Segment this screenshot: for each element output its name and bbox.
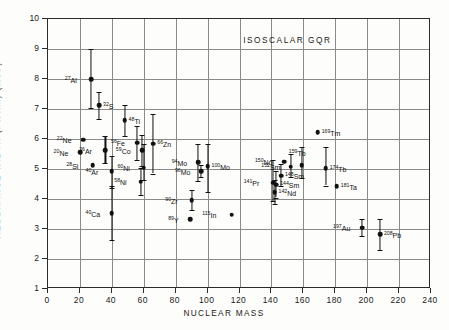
error-bar-cap: [288, 154, 293, 155]
data-point-label: 40Ca: [86, 210, 101, 218]
x-axis-tick: [334, 288, 335, 293]
data-point-label: 22Ne: [57, 136, 72, 144]
data-point[interactable]: [110, 169, 115, 174]
x-axis-tick: [239, 288, 240, 293]
x-axis-tick: [111, 288, 112, 293]
gridline-vertical: [399, 19, 400, 287]
error-bar-cap: [196, 144, 201, 145]
error-bar-cap: [196, 181, 201, 182]
gridline-vertical: [271, 19, 272, 287]
data-point-label: 27Al: [65, 76, 77, 84]
error-bar-cap: [89, 108, 94, 109]
data-point[interactable]: [138, 179, 143, 184]
error-bar-cap: [274, 171, 279, 172]
error-bar-cap: [89, 49, 94, 50]
data-point[interactable]: [205, 164, 210, 169]
data-point[interactable]: [81, 137, 86, 142]
y-axis-tick: [42, 108, 47, 109]
x-axis-tick-label: 100: [199, 295, 214, 305]
error-bar-cap: [377, 219, 382, 220]
data-point[interactable]: [103, 148, 108, 153]
x-axis-tick: [366, 288, 367, 293]
error-bar-cap: [135, 126, 140, 127]
error-bar-cap: [103, 163, 108, 164]
data-point[interactable]: [189, 198, 194, 203]
x-axis-tick: [398, 288, 399, 293]
data-point-label: 28Si: [66, 162, 78, 170]
x-axis-tick: [175, 288, 176, 293]
data-point[interactable]: [188, 217, 193, 222]
x-axis-tick-label: 40: [106, 295, 116, 305]
data-point[interactable]: [360, 225, 365, 230]
data-point-label: 174Tb: [330, 165, 347, 173]
error-bar: [143, 144, 144, 181]
data-point-label: 40Ar: [86, 168, 99, 176]
y-axis-tick-label: 7: [21, 103, 39, 113]
gridline-horizontal: [48, 79, 429, 80]
gridline-vertical: [112, 19, 113, 287]
x-axis-title: NUCLEAR MASS: [183, 308, 264, 318]
y-axis-tick-label: 2: [21, 253, 39, 263]
gridline-horizontal: [48, 259, 429, 260]
data-point-label: 48Ti: [129, 117, 140, 125]
y-axis-tick: [42, 18, 47, 19]
data-point[interactable]: [323, 166, 328, 171]
data-point[interactable]: [196, 160, 201, 165]
data-point-label: 66Zn: [157, 140, 171, 148]
data-point-label: 169Tm: [322, 129, 341, 137]
data-point[interactable]: [378, 232, 383, 237]
x-axis-tick: [79, 288, 80, 293]
data-point[interactable]: [272, 190, 277, 195]
error-bar-cap: [360, 236, 365, 237]
y-axis-tick-label: 10: [21, 13, 39, 23]
plot-area: 27Al32S48Ti22Ne20Ne36Ar56Fe59Co66Zn28Si6…: [47, 18, 430, 288]
data-point[interactable]: [199, 169, 204, 174]
error-bar-cap: [109, 186, 114, 187]
data-point-label: 36Ar: [79, 147, 92, 155]
y-axis-tick-label: 1: [21, 283, 39, 293]
y-axis-tick: [42, 48, 47, 49]
data-point[interactable]: [122, 118, 127, 123]
data-point[interactable]: [151, 142, 156, 147]
data-point[interactable]: [229, 212, 234, 217]
error-bar-cap: [272, 204, 277, 205]
data-point-label: 89Y: [168, 216, 178, 224]
error-bar-cap: [141, 144, 146, 145]
y-axis-tick: [42, 258, 47, 259]
y-axis-tick-label: 5: [21, 163, 39, 173]
data-point[interactable]: [89, 77, 94, 82]
x-axis-tick-label: 200: [358, 295, 373, 305]
y-axis-tick: [42, 228, 47, 229]
data-point-label: 142Nd: [279, 189, 297, 197]
data-point[interactable]: [135, 140, 140, 145]
x-axis-tick: [302, 288, 303, 293]
error-bar-cap: [122, 105, 127, 106]
error-bar-cap: [205, 192, 210, 193]
gridline-vertical: [176, 19, 177, 287]
x-axis-tick-label: 80: [170, 295, 180, 305]
data-point-label: 115In: [202, 211, 216, 219]
gridline-vertical: [335, 19, 336, 287]
x-axis-tick: [430, 288, 431, 293]
data-point[interactable]: [299, 163, 304, 168]
data-point[interactable]: [288, 164, 293, 169]
error-bar-cap: [272, 180, 277, 181]
error-bar-cap: [360, 219, 365, 220]
x-axis-tick: [47, 288, 48, 293]
data-point[interactable]: [335, 184, 340, 189]
error-bar-cap: [299, 147, 304, 148]
data-point[interactable]: [97, 103, 102, 108]
x-axis-tick: [270, 288, 271, 293]
data-point[interactable]: [110, 211, 115, 216]
data-point-label: 32S: [103, 102, 113, 110]
y-axis-tick-label: 8: [21, 73, 39, 83]
x-axis-tick-label: 240: [422, 295, 437, 305]
data-point[interactable]: [315, 130, 320, 135]
error-bar-cap: [138, 195, 143, 196]
data-point-label: 141Pr: [244, 179, 260, 187]
error-bar-cap: [135, 160, 140, 161]
y-axis-tick-label: 6: [21, 133, 39, 143]
y-axis-tick-label: 4: [21, 193, 39, 203]
data-point[interactable]: [279, 173, 284, 178]
x-axis-tick-label: 60: [138, 295, 148, 305]
